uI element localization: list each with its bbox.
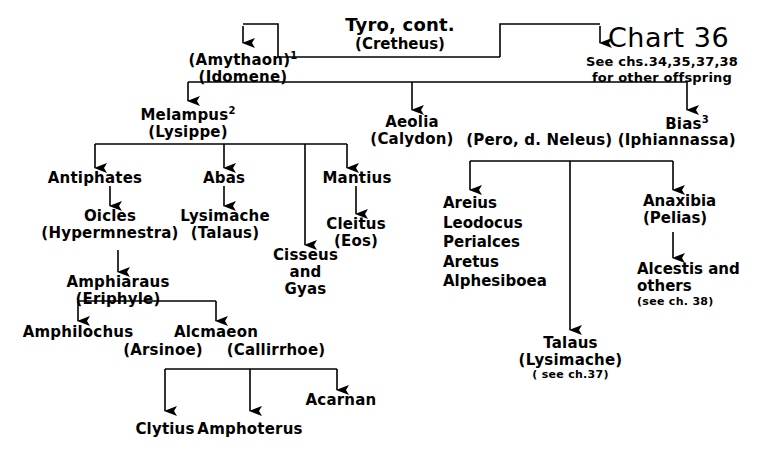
list-item-areius: Areius	[443, 194, 547, 214]
node-oicles-name: Oicles	[37, 208, 183, 225]
node-amphilochus: Amphilochus	[10, 324, 146, 341]
node-oicles-consort: (Hypermnestra)	[37, 225, 183, 242]
list-item-perialces: Perialces	[443, 233, 547, 253]
node-cisseus: Cisseus and Gyas	[258, 247, 353, 297]
node-antiphates: Antiphates	[35, 170, 155, 187]
list-item-alphesiboea: Alphesiboea	[443, 272, 547, 292]
node-lysimache-consort: (Talaus)	[170, 225, 280, 242]
list-item-aretus: Aretus	[443, 253, 547, 273]
chart-cross-reference: See chs.34,35,37,38 for other offspring	[552, 54, 772, 87]
node-amphoterus-name: Amphoterus	[186, 421, 314, 438]
node-cisseus-line3: Gyas	[258, 281, 353, 298]
node-cisseus-name: Cisseus	[258, 247, 353, 264]
node-antiphates-name: Antiphates	[35, 170, 155, 187]
node-talaus: Talaus (Lysimache) ( see ch.37)	[498, 335, 643, 381]
node-melampus-consort: (Lysippe)	[113, 124, 263, 141]
node-abas-name: Abas	[184, 170, 264, 187]
node-bias: Bias3	[637, 114, 737, 133]
node-melampus-name: Melampus	[140, 106, 228, 124]
edge-tyro-to-chart36-rail	[500, 24, 600, 57]
node-anaxibia-consort: (Pelias)	[643, 210, 716, 227]
chart-title-main: Tyro, cont.	[300, 14, 500, 35]
cross-ref-line-2: for other offspring	[592, 70, 732, 85]
node-amythaon-name: (Amythaon)	[189, 51, 291, 69]
node-bias-consort-row: (Pero, d. Neleus) (Iphiannassa)	[426, 132, 776, 149]
node-bias-offspring-list: Areius Leodocus Perialces Aretus Alphesi…	[443, 194, 547, 292]
chart-id-label: Chart 36	[608, 22, 729, 53]
node-anaxibia-name: Anaxibia	[643, 193, 716, 210]
node-alcmaeon-consort-callirrhoe: (Callirrhoe)	[214, 342, 338, 359]
node-alcmaeon-consort-left: (Arsinoe)	[108, 342, 218, 359]
node-alcmaeon-name: Alcmaeon	[160, 324, 272, 341]
node-amphiaraus-name: Amphiaraus	[48, 274, 188, 291]
node-mantius-name: Mantius	[311, 170, 403, 187]
genealogy-chart: Tyro, cont. (Cretheus) Chart 36 See chs.…	[0, 0, 779, 460]
node-amythaon: (Amythaon)1 (Idomene)	[163, 50, 323, 86]
node-amythaon-name-row: (Amythaon)1	[163, 50, 323, 69]
node-bias-name-row: Bias3	[637, 114, 737, 133]
node-talaus-consort: (Lysimache)	[498, 352, 643, 369]
node-aeolia-name: Aeolia	[352, 114, 472, 131]
node-alcmaeon-consort-right: (Callirrhoe)	[214, 342, 338, 359]
node-alcestis-line2: others	[637, 278, 740, 295]
node-bias-consort: (Pero, d. Neleus) (Iphiannassa)	[426, 132, 776, 149]
node-oicles: Oicles (Hypermnestra)	[37, 208, 183, 242]
node-acarnan-name: Acarnan	[296, 392, 386, 409]
node-alcmaeon: Alcmaeon	[160, 324, 272, 341]
node-amythaon-consort: (Idomene)	[163, 69, 323, 86]
node-cisseus-line2: and	[258, 264, 353, 281]
chart-title: Tyro, cont. (Cretheus)	[300, 14, 500, 53]
node-acarnan: Acarnan	[296, 392, 386, 409]
node-mantius: Mantius	[311, 170, 403, 187]
node-lysimache: Lysimache (Talaus)	[170, 208, 280, 242]
node-melampus-name-row: Melampus2	[113, 105, 263, 124]
node-cleitus: Cleitus (Eos)	[310, 216, 402, 250]
node-alcmaeon-consort-arsinoe: (Arsinoe)	[108, 342, 218, 359]
node-lysimache-name: Lysimache	[170, 208, 280, 225]
node-alcestis-note: (see ch. 38)	[637, 296, 740, 309]
node-anaxibia: Anaxibia (Pelias)	[643, 193, 716, 228]
node-amphoterus: Amphoterus	[186, 421, 314, 438]
node-talaus-note: ( see ch.37)	[498, 369, 643, 381]
cross-ref-line-1: See chs.34,35,37,38	[586, 54, 738, 69]
list-item-leodocus: Leodocus	[443, 214, 547, 234]
node-melampus: Melampus2 (Lysippe)	[113, 105, 263, 141]
node-talaus-name: Talaus	[498, 335, 643, 352]
node-amphiaraus: Amphiaraus (Eriphyle)	[48, 274, 188, 308]
node-alcestis-name: Alcestis and	[637, 261, 740, 278]
node-melampus-footnote: 2	[228, 105, 235, 116]
node-alcestis: Alcestis and others (see ch. 38)	[637, 261, 740, 308]
node-abas: Abas	[184, 170, 264, 187]
chart-title-consort: (Cretheus)	[300, 35, 500, 53]
node-bias-footnote: 3	[702, 114, 709, 125]
node-cleitus-name: Cleitus	[310, 216, 402, 233]
node-amphilochus-name: Amphilochus	[10, 324, 146, 341]
node-amythaon-footnote: 1	[290, 50, 297, 61]
node-amphiaraus-consort: (Eriphyle)	[48, 291, 188, 308]
